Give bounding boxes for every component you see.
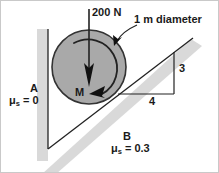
surface-a-label: A xyxy=(30,83,38,94)
diameter-label: 1 m diameter xyxy=(134,14,202,25)
surface-a-friction-label: μs = 0 xyxy=(9,95,39,108)
wall-a-band xyxy=(37,29,48,161)
surface-b-friction-label: μs = 0.3 xyxy=(111,143,150,156)
slope-run-label: 4 xyxy=(149,96,155,107)
surface-b-mu-subscript: s xyxy=(118,147,122,156)
surface-b-label: B xyxy=(123,131,131,142)
surface-a-mu-value: = 0 xyxy=(23,94,39,106)
surface-a-mu-symbol: μ xyxy=(9,94,16,106)
surface-a-mu-subscript: s xyxy=(16,99,20,108)
applied-force-label: 200 N xyxy=(92,7,121,18)
moment-label: M xyxy=(75,87,84,98)
surface-b-mu-symbol: μ xyxy=(111,142,118,154)
slope-rise-label: 3 xyxy=(179,63,185,74)
statics-figure: 200 N 1 m diameter A μs = 0 B μs = 0.3 M… xyxy=(0,0,219,173)
surface-b-mu-value: = 0.3 xyxy=(125,142,150,154)
